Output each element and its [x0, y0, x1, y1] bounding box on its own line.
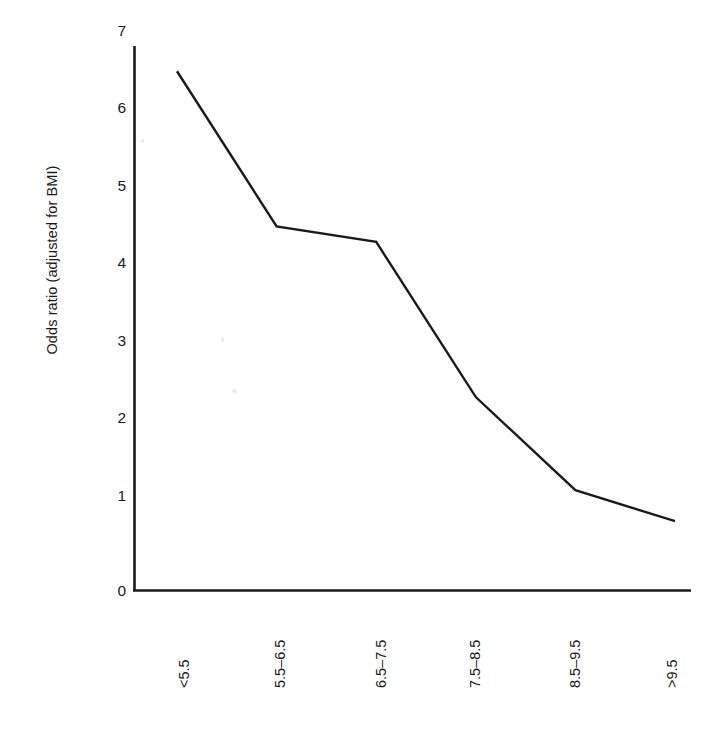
chart-figure: Odds ratio (adjusted for BMI) 7 6 5 4 3 …	[0, 0, 705, 748]
plot-area	[0, 0, 705, 748]
data-series-line	[177, 71, 675, 521]
